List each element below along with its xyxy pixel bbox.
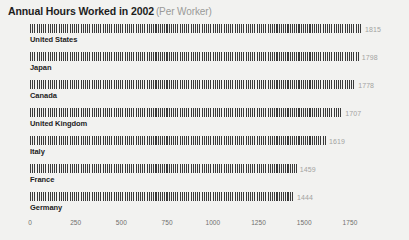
bar-category-label: United States <box>30 35 77 44</box>
bar-row: 1444Germany <box>0 192 409 220</box>
bar-value-label: 1815 <box>365 25 381 34</box>
bar <box>30 24 362 33</box>
bar <box>30 52 359 61</box>
chart-title-row: Annual Hours Worked in 2002(Per Worker) <box>8 4 212 18</box>
bar-category-label: United Kingdom <box>30 119 87 128</box>
bar <box>30 192 294 201</box>
bar-value-label: 1444 <box>297 193 313 202</box>
x-tick-label: 1000 <box>205 219 220 226</box>
bar <box>30 136 326 145</box>
bar-value-label: 1619 <box>329 137 345 146</box>
bar-value-label: 1707 <box>345 109 361 118</box>
x-tick-label: 500 <box>116 219 127 226</box>
bar-row: 1459France <box>0 164 409 192</box>
bar-category-label: Germany <box>30 203 62 212</box>
x-tick-label: 250 <box>70 219 81 226</box>
bar-row: 1619Italy <box>0 136 409 164</box>
bar-value-label: 1798 <box>362 53 378 62</box>
bar-row: 1707United Kingdom <box>0 108 409 136</box>
chart-subtitle: (Per Worker) <box>156 6 212 17</box>
bar-category-label: Japan <box>30 63 51 72</box>
x-tick-label: 1750 <box>343 219 358 226</box>
bar-category-label: Italy <box>30 147 45 156</box>
x-axis: 02505007501000125015001750 <box>0 219 409 233</box>
bar-category-label: France <box>30 175 54 184</box>
bar-row: 1778Canada <box>0 80 409 108</box>
bar <box>30 80 355 89</box>
bar-value-label: 1459 <box>300 165 316 174</box>
bar-value-label: 1778 <box>358 81 374 90</box>
bar <box>30 164 297 173</box>
chart-container: Annual Hours Worked in 2002(Per Worker) … <box>0 0 409 240</box>
x-tick-label: 0 <box>28 219 32 226</box>
bar-row: 1798Japan <box>0 52 409 80</box>
x-tick-label: 750 <box>162 219 173 226</box>
plot-area: 1815United States1798Japan1778Canada1707… <box>0 24 409 214</box>
x-tick-label: 1250 <box>251 219 266 226</box>
bar-row: 1815United States <box>0 24 409 52</box>
x-tick-label: 1500 <box>297 219 312 226</box>
chart-title: Annual Hours Worked in 2002 <box>8 5 154 17</box>
bar-category-label: Canada <box>30 91 57 100</box>
bar <box>30 108 342 117</box>
